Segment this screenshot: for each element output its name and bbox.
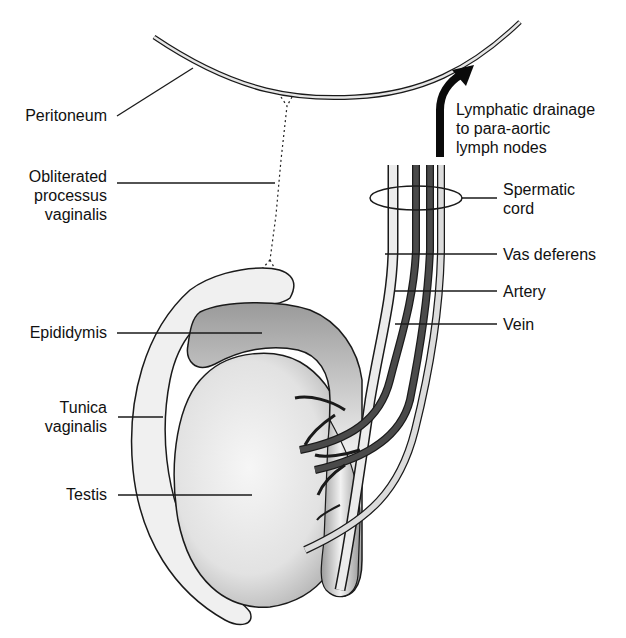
label-epididymis: Epididymis bbox=[0, 323, 107, 342]
label-obliterated-processus-vaginalis: Obliterated processus vaginalis bbox=[0, 167, 107, 224]
label-vas-deferens: Vas deferens bbox=[503, 245, 596, 264]
label-artery: Artery bbox=[503, 282, 546, 301]
label-spermatic-cord: Spermatic cord bbox=[503, 180, 575, 218]
peritoneum-membrane bbox=[154, 22, 520, 98]
label-testis: Testis bbox=[0, 485, 107, 504]
label-tunica-vaginalis: Tunica vaginalis bbox=[0, 398, 107, 436]
label-peritoneum: Peritoneum bbox=[0, 106, 107, 125]
label-vein: Vein bbox=[503, 315, 534, 334]
label-lymphatic-drainage: Lymphatic drainage to para-aortic lymph … bbox=[456, 100, 595, 157]
